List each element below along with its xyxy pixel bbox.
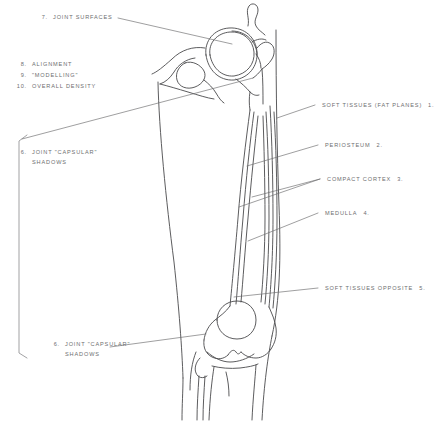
annotation-number: 9. [14,71,27,81]
annotation-label: COMPACT CORTEX [327,176,391,182]
femoral-condyle-medial [204,340,228,359]
ischial-ramus [204,80,224,103]
femur-shaft-lateral-cortex-outer [269,106,273,307]
annotation-label-line1: JOINT "CAPSULAR" [32,149,97,155]
annotation-soft-tissues-fat-planes: SOFT TISSUES (FAT PLANES)1. [322,101,434,111]
annotation-number: 3. [397,175,403,185]
iliac-crest-curl [247,4,265,35]
leader-compact-cortex-b [252,179,320,197]
femur-shaft-medial-cortex-outer [230,110,250,306]
annotation-alignment: 8.ALIGNMENT [14,60,72,70]
obturator-foramen [176,62,205,88]
femur-shaft-lateral-cortex-inner [265,112,269,304]
annotation-number: 10. [14,82,27,92]
annotation-joint-capsular-shadows-bottom: 6.JOINT "CAPSULAR" SHADOWS [47,340,130,359]
annotation-label: SOFT TISSUES OPPOSITE [325,285,413,291]
leader-soft-tissues-fat-planes [277,105,315,118]
anatomical-figure: 7.JOINT SURFACES 8.ALIGNMENT 9."MODELLIN… [0,0,443,426]
annotation-number: 7. [35,13,48,23]
trochanter-crest [253,69,262,78]
annotation-modelling: 9."MODELLING" [14,71,78,81]
annotation-number: 6. [47,340,60,350]
leader-joint-surfaces [118,18,232,44]
annotation-medulla: MEDULLA4. [325,209,370,219]
leader-soft-tissues-opposite [234,288,318,297]
annotation-label-line2: SHADOWS [65,350,130,360]
annotation-label: OVERALL DENSITY [32,83,96,89]
annotation-label: ALIGNMENT [32,61,72,67]
annotation-overall-density: 10.OVERALL DENSITY [14,82,96,92]
femoral-medial-calcar [249,92,250,110]
annotation-periosteum: PERIOSTEUM2. [325,141,383,151]
soft-tissue-outline-left-lower [182,378,183,420]
annotation-label: SOFT TISSUES (FAT PLANES) [322,102,422,108]
intercondylar-notch [228,350,241,355]
annotation-joint-surfaces: 7.JOINT SURFACES [35,13,113,23]
tibial-tuberosity [226,372,229,396]
annotation-label: "MODELLING" [32,72,78,78]
leader-periosteum [247,145,318,166]
annotation-number: 6. [14,148,27,158]
femoral-condyle-lateral [241,349,271,358]
femoral-head-superior [232,31,257,55]
pubic-ramus-lower [160,84,214,99]
annotation-number: 4. [363,209,369,219]
acetabulum-outer-rim [206,28,257,80]
leader-medulla [248,213,318,241]
tibia-lateral-border [252,365,256,420]
annotation-number: 5. [419,284,425,294]
annotation-number: 8. [14,60,27,70]
medullary-canal-lateral-edge [261,116,265,302]
fibula-shaft [197,376,199,420]
annotation-label: PERIOSTEUM [325,142,371,148]
patella [217,301,256,339]
annotation-number: 2. [377,141,383,151]
pelvic-ramus-upper [152,47,205,74]
greater-trochanter [257,42,274,69]
soft-tissue-outline-right-lower [262,336,272,420]
tibia-medial-border [209,367,214,420]
condyle-articular-surface [207,352,254,362]
fibula-shaft-inner [203,376,205,420]
tibial-plateau [212,364,258,368]
distal-femur-lateral-flare [269,307,276,349]
fibula-head [195,358,207,378]
annotation-label-line2: SHADOWS [32,158,97,168]
annotation-label: MEDULLA [325,210,357,216]
acetabulum-inner-rim [210,32,254,76]
annotation-label: JOINT SURFACES [53,14,113,20]
femoral-lateral-border-prox [262,69,263,104]
annotation-label-line1: JOINT "CAPSULAR" [65,341,130,347]
periosteum-line [273,112,277,308]
soft-tissue-outline-left [158,82,183,378]
left-bracket [19,135,27,358]
annotation-number: 1. [428,101,434,111]
lesser-trochanter [250,92,259,95]
annotation-soft-tissues-opposite: SOFT TISSUES OPPOSITE5. [325,284,426,294]
annotation-compact-cortex: COMPACT CORTEX3. [327,175,404,185]
annotation-joint-capsular-shadows-bracket: 6.JOINT "CAPSULAR" SHADOWS [14,148,97,167]
